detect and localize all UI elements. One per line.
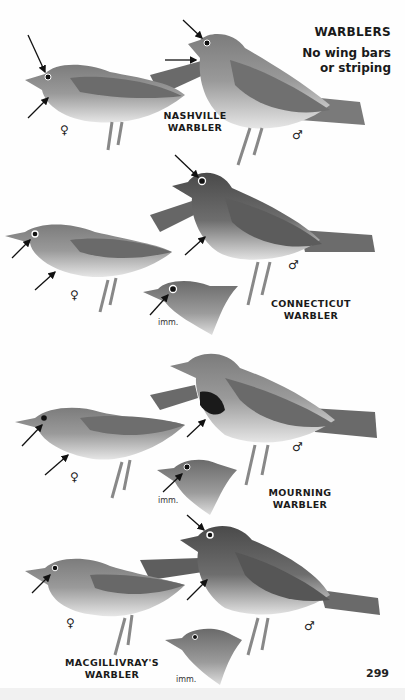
male-symbol: ♂ — [304, 619, 315, 633]
mourning-immature-head — [157, 460, 237, 515]
male-symbol: ♂ — [288, 258, 299, 272]
subtitle-line-1: No wing bars — [271, 46, 391, 61]
female-symbol: ♀ — [66, 616, 75, 630]
species-name-line-1: MACGILLIVRAY'S — [62, 657, 162, 669]
nashville-female-bird — [25, 60, 210, 150]
species-label-mourning: MOURNING WARBLER — [260, 487, 340, 511]
male-symbol: ♂ — [292, 128, 303, 142]
mourning-female-bird — [15, 385, 198, 498]
species-label-connecticut: CONNECTICUT WARBLER — [266, 298, 356, 322]
page-number: 299 — [366, 667, 389, 680]
immature-label: imm. — [158, 318, 178, 327]
species-label-nashville: NASHVILLE WARBLER — [160, 110, 230, 134]
species-name-line-2: WARBLER — [62, 669, 162, 681]
species-name-line-1: NASHVILLE — [160, 110, 230, 122]
species-name-line-2: WARBLER — [266, 310, 356, 322]
bird-illustrations — [0, 0, 405, 700]
species-name-line-2: WARBLER — [160, 122, 230, 134]
section-subtitle: No wing bars or striping — [271, 46, 391, 76]
page-section-title: WARBLERS — [315, 25, 392, 39]
female-symbol: ♀ — [70, 288, 79, 302]
species-name-line-2: WARBLER — [260, 499, 340, 511]
male-symbol: ♂ — [292, 440, 303, 454]
female-symbol: ♀ — [60, 123, 69, 137]
immature-label: imm. — [158, 496, 178, 505]
species-name-line-1: MOURNING — [260, 487, 340, 499]
subtitle-line-2: or striping — [271, 61, 391, 76]
immature-label: imm. — [176, 675, 196, 684]
female-symbol: ♀ — [70, 470, 79, 484]
species-label-macgillivrays: MACGILLIVRAY'S WARBLER — [62, 657, 162, 681]
species-name-line-1: CONNECTICUT — [266, 298, 356, 310]
